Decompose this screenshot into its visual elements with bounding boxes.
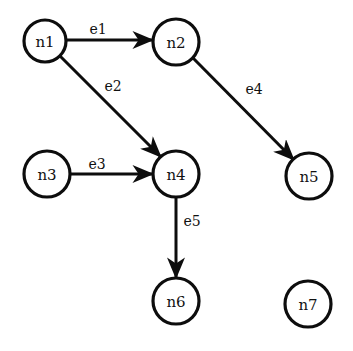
node-n4-label: n4 bbox=[166, 166, 185, 184]
node-n2-label: n2 bbox=[166, 34, 185, 52]
graph-diagram-canvas: e1 e2 e3 e4 e5 n1 bbox=[0, 0, 353, 351]
node-n1-label: n1 bbox=[35, 33, 54, 51]
edge-e2-label: e2 bbox=[104, 78, 121, 94]
node-n5[interactable]: n5 bbox=[286, 153, 332, 199]
node-n5-label: n5 bbox=[299, 168, 318, 186]
node-n7[interactable]: n7 bbox=[285, 281, 331, 327]
node-n4[interactable]: n4 bbox=[153, 151, 199, 197]
graph-svg: e1 e2 e3 e4 e5 n1 bbox=[0, 0, 353, 351]
node-n3[interactable]: n3 bbox=[24, 151, 70, 197]
edge-e4[interactable]: e4 bbox=[193, 58, 294, 160]
edge-e2[interactable]: e2 bbox=[60, 56, 161, 157]
edge-e5[interactable]: e5 bbox=[176, 197, 201, 278]
edge-e1-label: e1 bbox=[89, 21, 106, 37]
node-n7-label: n7 bbox=[298, 296, 317, 314]
edge-e3[interactable]: e3 bbox=[70, 156, 153, 174]
node-n3-label: n3 bbox=[37, 166, 56, 184]
edge-e5-label: e5 bbox=[183, 213, 200, 229]
node-n6[interactable]: n6 bbox=[153, 278, 199, 324]
edge-e4-label: e4 bbox=[245, 81, 262, 97]
edge-e1[interactable]: e1 bbox=[66, 21, 153, 40]
edge-e2-line bbox=[60, 56, 161, 157]
edge-e4-line bbox=[193, 58, 294, 160]
node-n2[interactable]: n2 bbox=[153, 19, 199, 65]
edge-e3-label: e3 bbox=[88, 156, 105, 172]
node-n1[interactable]: n1 bbox=[24, 20, 66, 62]
node-n6-label: n6 bbox=[166, 293, 185, 311]
